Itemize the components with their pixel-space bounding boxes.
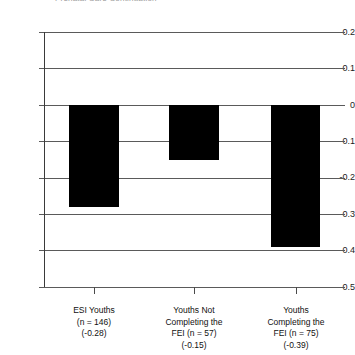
gridline-0.2: [44, 32, 345, 33]
x-axis-tick-1: [94, 287, 95, 294]
x-label-3-line-3: FEI (n = 75): [242, 328, 350, 340]
bar-chart: Prenatal Care Continuation 0.2 0.1 0 -0.…: [0, 0, 355, 355]
clipped-title-fragment: Prenatal Care Continuation: [55, 0, 295, 3]
gridline--0.4: [44, 250, 345, 251]
x-axis-label-group-2: Youths Not Completing the FEI (n = 57) (…: [140, 305, 248, 351]
x-label-3-line-2: Completing the: [242, 317, 350, 329]
x-axis-label-group-3: Youths Completing the FEI (n = 75) (-0.3…: [242, 305, 350, 351]
y-axis-tick-0.2: [39, 32, 44, 33]
plot-area: [44, 32, 345, 287]
bar-youths-completing-fei: [271, 105, 320, 247]
x-label-2-line-2: Completing the: [140, 317, 248, 329]
y-axis-tick--0.1: [39, 141, 44, 142]
x-label-2-line-3: FEI (n = 57): [140, 328, 248, 340]
x-label-3-line-4: (-0.39): [242, 340, 350, 352]
y-axis-tick-0: [39, 105, 44, 106]
y-axis-tick--0.3: [39, 214, 44, 215]
y-axis-tick--0.2: [39, 178, 44, 179]
y-axis-line: [44, 32, 45, 287]
y-axis-tick--0.5: [39, 287, 44, 288]
gridline-0.1: [44, 68, 345, 69]
x-label-2-line-4: (-0.15): [140, 340, 248, 352]
x-label-3-line-1: Youths: [242, 305, 350, 317]
x-axis-tick-3: [296, 287, 297, 294]
y-axis-tick--0.4: [39, 250, 44, 251]
bar-youths-not-completing-fei: [169, 105, 219, 160]
x-axis-label-group-1: ESI Youths (n = 146) (-0.28): [40, 305, 148, 340]
x-label-1-line-3: (-0.28): [40, 328, 148, 340]
x-label-1-line-2: (n = 146): [40, 317, 148, 329]
x-axis-tick-2: [194, 287, 195, 294]
bar-esi-youths: [69, 105, 119, 207]
x-label-2-line-1: Youths Not: [140, 305, 248, 317]
x-label-1-line-1: ESI Youths: [40, 305, 148, 317]
y-axis-tick-0.1: [39, 68, 44, 69]
